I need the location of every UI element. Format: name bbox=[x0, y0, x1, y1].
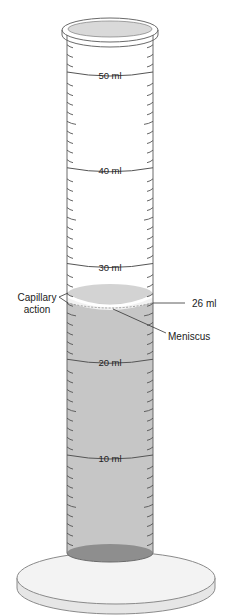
capillary-label-line2: action bbox=[24, 304, 51, 315]
graduated-cylinder-diagram: 50 ml 40 ml 30 ml 20 ml 10 ml Capillary … bbox=[0, 0, 232, 615]
liquid bbox=[67, 284, 153, 562]
label-50ml: 50 ml bbox=[98, 70, 121, 81]
meniscus-label: Meniscus bbox=[168, 331, 210, 342]
capillary-label-line1: Capillary bbox=[18, 292, 57, 303]
cylinder-rim bbox=[62, 18, 158, 47]
reading-label: 26 ml bbox=[192, 298, 216, 309]
label-20ml: 20 ml bbox=[98, 357, 121, 368]
label-40ml: 40 ml bbox=[98, 165, 121, 176]
label-10ml: 10 ml bbox=[98, 453, 121, 464]
label-30ml: 30 ml bbox=[98, 262, 121, 273]
